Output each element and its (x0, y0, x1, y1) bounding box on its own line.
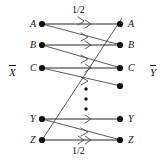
node-left-B[interactable] (39, 42, 45, 48)
node-label-left-Y: Y (30, 114, 36, 124)
edge-A-to-B (42, 24, 121, 45)
vertical-ellipsis-icon (84, 87, 87, 110)
node-label-left-Z: Z (30, 135, 36, 145)
node-label-left-C: C (30, 63, 37, 73)
node-right-A[interactable] (117, 21, 123, 27)
channel-transition-figure: A B C Y Z A B C Y Z X Y 1/2 1/2 (0, 0, 167, 163)
diagram-canvas (0, 0, 167, 163)
right-nodes (117, 21, 123, 143)
node-right-Z[interactable] (117, 137, 123, 143)
node-label-right-Z: Z (128, 135, 134, 145)
input-alphabet-text: X (9, 66, 16, 78)
ellipsis-dot-1 (84, 87, 87, 90)
edge-B-to-C (42, 45, 121, 68)
node-label-right-C: C (128, 63, 135, 73)
ellipsis-dot-2 (84, 97, 87, 100)
ellipsis-dot-3 (84, 107, 87, 110)
wraparound-edge-group (42, 18, 122, 140)
output-alphabet-label: Y (150, 65, 156, 78)
transition-probability-bottom: 1/2 (72, 146, 85, 156)
node-right-C[interactable] (117, 65, 123, 71)
node-right-Y[interactable] (117, 116, 123, 122)
transition-probability-top: 1/2 (72, 5, 85, 15)
output-alphabet-text: Y (150, 66, 156, 78)
node-left-C[interactable] (39, 65, 45, 71)
left-nodes (39, 21, 45, 143)
input-alphabet-label: X (9, 65, 16, 78)
node-label-right-A: A (128, 19, 134, 29)
node-left-Y[interactable] (39, 116, 45, 122)
node-label-left-B: B (30, 40, 36, 50)
node-left-Z[interactable] (39, 137, 45, 143)
node-right-unlabeled[interactable] (117, 83, 123, 89)
node-right-B[interactable] (117, 42, 123, 48)
edge-Z-to-A (42, 18, 122, 140)
node-label-left-A: A (30, 19, 36, 29)
node-label-right-B: B (128, 40, 134, 50)
node-label-right-Y: Y (128, 114, 134, 124)
node-left-A[interactable] (39, 21, 45, 27)
